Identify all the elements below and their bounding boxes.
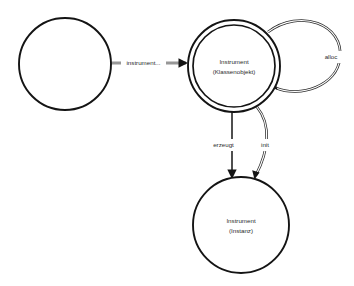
- node-client[interactable]: [19, 18, 111, 110]
- node-instrument-class-object[interactable]: Instrument (Klassenobjekt): [188, 20, 280, 112]
- client-circle[interactable]: [19, 18, 111, 110]
- node-instrument-instance[interactable]: Instrument (Instanz): [193, 177, 289, 273]
- instance-circle[interactable]: [193, 177, 289, 273]
- class-object-inner-circle: [193, 25, 275, 107]
- instance-label-line2: (Instanz): [229, 227, 253, 234]
- erzeugt-label: erzeugt: [213, 141, 234, 148]
- edge-label-erzeugt: erzeugt: [209, 139, 238, 151]
- edge-label-instrument-message: instrument...: [121, 57, 166, 69]
- init-label: init: [261, 141, 269, 148]
- diagram-svg: Instrument (Klassenobjekt) Instrument (I…: [0, 0, 354, 286]
- instrument-message-arrowhead-icon: [179, 58, 189, 67]
- alloc-label: alloc: [325, 53, 338, 60]
- instrument-message-label: instrument...: [126, 59, 160, 66]
- class-object-label-line2: (Klassenobjekt): [213, 68, 256, 75]
- diagram-canvas: Instrument (Klassenobjekt) Instrument (I…: [0, 0, 354, 286]
- edge-label-init: init: [256, 139, 274, 151]
- class-object-label-line1: Instrument: [219, 58, 249, 65]
- edge-label-alloc: alloc: [320, 51, 342, 63]
- instance-label-line1: Instrument: [226, 217, 256, 224]
